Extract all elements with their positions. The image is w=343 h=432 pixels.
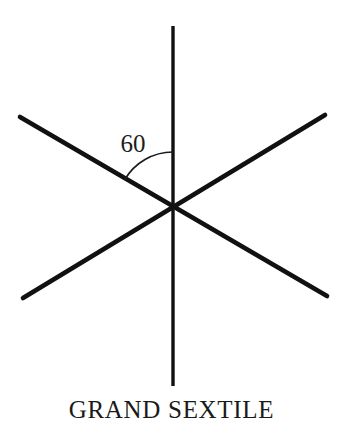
figure-caption: GRAND SEXTILE: [0, 396, 343, 424]
grand-sextile-figure: 60 GRAND SEXTILE: [0, 0, 343, 432]
angle-value-label: 60: [121, 130, 146, 157]
sextile-line-diagram: 60: [0, 0, 343, 432]
